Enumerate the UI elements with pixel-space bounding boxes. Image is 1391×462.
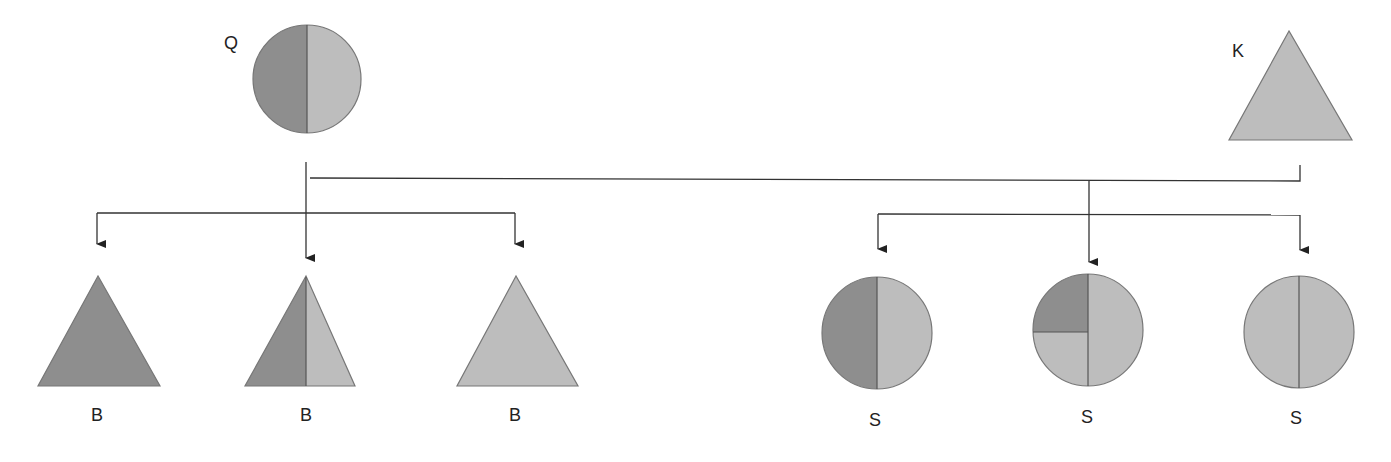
offspring-b-1-label: B [91, 405, 103, 425]
parent-k-triangle-icon [1229, 31, 1352, 140]
offspring-s-1-label: S [869, 410, 881, 430]
offspring-s-2: S [1025, 265, 1151, 427]
parent-q-label: Q [224, 33, 238, 53]
offspring-s-2-label: S [1081, 407, 1093, 427]
offspring-s-1: S [815, 270, 939, 430]
offspring-b-3: B [457, 276, 578, 425]
triangle-light-icon [457, 276, 578, 386]
parent-k-label: K [1232, 41, 1244, 61]
parent-k: K [1229, 31, 1352, 140]
offspring-b-3-label: B [509, 405, 521, 425]
offspring-b-2: B [240, 270, 366, 425]
offspring-b-2-label: B [300, 405, 312, 425]
triangle-dark-icon [38, 276, 160, 386]
triangle-half-icon [240, 270, 366, 390]
parent-q: Q [224, 20, 367, 140]
parent-q-circle-icon [250, 20, 367, 140]
offspring-s-3-label: S [1290, 408, 1302, 428]
connector-lines [97, 162, 1300, 262]
offspring-s-3: S [1244, 276, 1354, 428]
offspring-b-1: B [38, 276, 160, 425]
inheritance-diagram: Q K B B [0, 0, 1391, 462]
